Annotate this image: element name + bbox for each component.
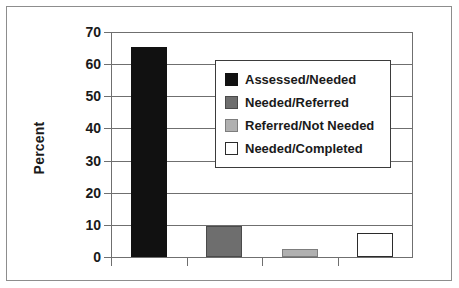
plot-right-border (412, 32, 413, 257)
y-axis-tick (104, 257, 111, 258)
y-axis-tick (104, 32, 111, 33)
legend-item-label: Referred/Not Needed (245, 119, 374, 132)
legend-swatch-icon (225, 96, 238, 109)
y-axis-tick-label: 30 (85, 154, 101, 168)
y-axis-title-label: Percent (31, 103, 47, 193)
legend-swatch-icon (225, 142, 238, 155)
bar (282, 249, 318, 257)
y-axis-tick-label: 20 (85, 186, 101, 200)
y-axis-tick-label: 0 (93, 250, 101, 264)
x-axis-tick (187, 257, 188, 266)
y-axis-tick (104, 193, 111, 194)
y-axis-line (111, 32, 112, 257)
bar (357, 233, 393, 257)
x-axis-tick (262, 257, 263, 266)
legend-swatch-icon (225, 73, 238, 86)
chart-figure: Percent 010203040506070 Assessed/NeededN… (6, 6, 452, 281)
legend-item-label: Needed/Completed (245, 142, 363, 155)
y-axis-tick (104, 96, 111, 97)
bar (131, 47, 167, 257)
gridline (111, 32, 413, 33)
bar (206, 226, 242, 257)
y-axis-tick (104, 225, 111, 226)
y-axis-tick-label: 50 (85, 89, 101, 103)
y-axis-tick (104, 161, 111, 162)
y-axis-title: Percent (29, 102, 49, 192)
legend-item: Referred/Not Needed (225, 114, 382, 137)
y-axis-tick-label: 70 (85, 25, 101, 39)
legend-item: Needed/Referred (225, 91, 382, 114)
y-axis-tick-label: 10 (85, 218, 101, 232)
x-axis-tick (111, 257, 112, 266)
x-axis-tick (338, 257, 339, 266)
chart-legend: Assessed/NeededNeeded/ReferredReferred/N… (215, 60, 391, 168)
legend-item: Assessed/Needed (225, 68, 382, 91)
y-axis-tick-label: 40 (85, 121, 101, 135)
legend-item-label: Assessed/Needed (245, 73, 356, 86)
legend-swatch-icon (225, 119, 238, 132)
legend-item: Needed/Completed (225, 137, 382, 160)
y-axis-tick-label: 60 (85, 57, 101, 71)
y-axis-tick (104, 128, 111, 129)
y-axis-tick (104, 64, 111, 65)
legend-item-label: Needed/Referred (245, 96, 349, 109)
